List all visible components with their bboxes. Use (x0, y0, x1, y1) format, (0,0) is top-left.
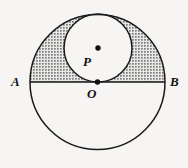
geometry-canvas (0, 0, 188, 168)
lune-region (0, 0, 188, 168)
center-dot-P (95, 45, 100, 50)
center-dot-O (95, 79, 100, 84)
point-label-o: O (87, 87, 96, 100)
geometry-figure: A B P O (0, 0, 188, 168)
point-label-a: A (11, 75, 20, 88)
point-label-p: P (83, 55, 91, 68)
point-label-b: B (170, 75, 179, 88)
